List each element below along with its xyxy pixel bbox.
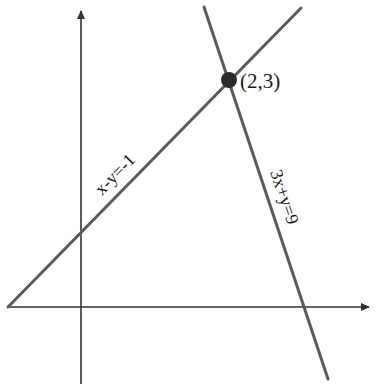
line-x-minus-y-eq-neg1 (8, 8, 301, 307)
line1-label: x-y=-1 (91, 150, 140, 199)
line2-label: 3x+y=9 (266, 167, 303, 227)
intersection-point (221, 72, 237, 88)
line-3x-plus-y-eq-9 (204, 7, 328, 379)
coordinate-diagram: (2,3) x-y=-1 3x+y=9 (0, 0, 378, 391)
intersection-label: (2,3) (240, 69, 280, 93)
